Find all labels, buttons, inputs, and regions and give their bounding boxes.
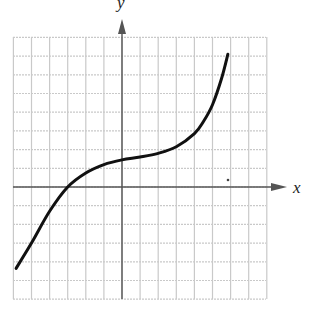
y-axis-label: y <box>115 0 125 12</box>
grid-lines <box>13 37 267 299</box>
stray-dot-marker <box>227 179 230 182</box>
y-axis-arrow-icon <box>118 19 126 34</box>
cubic-function-graph: x y <box>0 0 309 315</box>
x-axis-arrow-icon <box>271 183 287 191</box>
x-axis-label: x <box>292 178 301 197</box>
